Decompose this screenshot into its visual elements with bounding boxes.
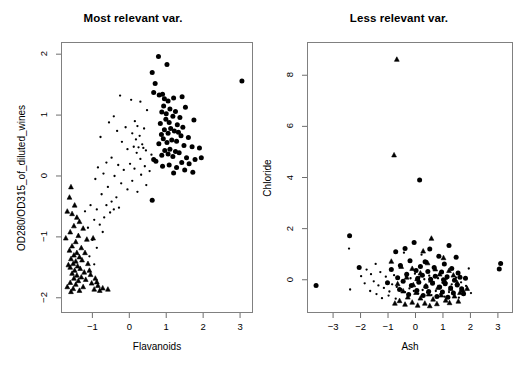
data-point-circle [389, 267, 394, 272]
data-point-dot [135, 138, 137, 140]
data-point-dot [391, 283, 393, 285]
data-point-dot [94, 178, 96, 180]
series-class-1 [314, 178, 504, 300]
data-point-circle [314, 283, 319, 288]
data-point-dot [379, 271, 381, 273]
data-point-triangle [69, 184, 74, 189]
data-point-dot [349, 288, 351, 290]
data-point-circle [169, 138, 174, 143]
data-point-circle [385, 280, 390, 285]
data-point-circle [150, 70, 155, 75]
data-point-dot [89, 204, 91, 206]
data-point-dot [401, 280, 403, 282]
data-point-triangle [72, 268, 77, 273]
data-point-dot [121, 141, 123, 143]
data-point-dot [387, 294, 389, 296]
data-point-triangle [394, 57, 399, 62]
data-point-circle [182, 167, 187, 172]
x-axis-title: Ash [307, 341, 513, 352]
data-point-triangle [79, 245, 84, 250]
data-point-circle [357, 265, 362, 270]
data-point-dot [117, 164, 119, 166]
data-point-circle [199, 155, 204, 160]
data-point-circle [427, 247, 432, 252]
x-tick-label: 3 [478, 321, 518, 332]
data-point-dot [348, 247, 350, 249]
data-point-triangle [81, 226, 86, 231]
data-point-triangle [100, 285, 105, 290]
data-point-dot [395, 298, 397, 300]
data-point-dot [142, 147, 144, 149]
data-point-circle [403, 246, 408, 251]
data-point-dot [113, 115, 115, 117]
data-point-circle [177, 115, 182, 120]
data-point-triangle [395, 281, 400, 286]
data-point-triangle [415, 303, 420, 308]
data-point-circle [436, 254, 441, 259]
data-point-dot [428, 275, 430, 277]
data-point-dot [396, 286, 398, 288]
data-point-circle [156, 54, 161, 59]
data-point-dot [96, 247, 98, 249]
data-point-triangle [403, 302, 408, 307]
data-point-triangle [70, 243, 75, 248]
data-point-dot [421, 289, 423, 291]
data-point-circle [412, 240, 417, 245]
data-point-circle [174, 139, 179, 144]
data-point-dot [126, 188, 128, 190]
data-point-dot [136, 191, 138, 193]
x-tick-label: 0 [109, 321, 149, 332]
data-point-circle [158, 121, 163, 126]
data-point-circle [160, 164, 165, 169]
data-point-dot [360, 275, 362, 277]
data-point-dot [375, 263, 377, 265]
data-point-circle [175, 122, 180, 127]
y-tick-label: 8 [284, 65, 295, 85]
data-point-dot [134, 120, 136, 122]
data-point-circle [171, 96, 176, 101]
data-point-dot [102, 172, 104, 174]
data-point-dot [373, 280, 375, 282]
data-point-triangle [91, 235, 96, 240]
data-point-circle [497, 267, 502, 272]
data-point-dot [470, 292, 472, 294]
y-axis-title: OD280/OD315_of_diluted_wines [16, 104, 27, 250]
data-point-dot [131, 132, 133, 134]
data-point-triangle [88, 272, 93, 277]
data-point-triangle [397, 298, 402, 303]
y-tick-label: −2 [38, 287, 49, 307]
x-tick-label: 2 [183, 321, 223, 332]
data-point-circle [417, 178, 422, 183]
data-point-triangle [84, 237, 89, 242]
data-point-circle [170, 114, 175, 119]
data-point-triangle [389, 259, 394, 264]
data-point-dot [115, 196, 117, 198]
data-point-dot [144, 165, 146, 167]
data-point-triangle [77, 219, 82, 224]
data-point-triangle [74, 250, 79, 255]
data-point-dot [88, 255, 90, 257]
data-point-circle [191, 117, 196, 122]
data-point-triangle [68, 229, 73, 234]
data-point-circle [447, 243, 452, 248]
data-point-triangle [87, 268, 92, 273]
data-point-circle [166, 152, 171, 157]
data-point-dot [375, 293, 377, 295]
data-point-triangle [76, 233, 81, 238]
data-point-dot [107, 186, 109, 188]
data-point-circle [184, 155, 189, 160]
data-point-circle [151, 157, 156, 162]
x-tick-label: −1 [72, 321, 112, 332]
data-point-dot [369, 290, 371, 292]
data-point-dot [377, 284, 379, 286]
data-point-dot [383, 287, 385, 289]
figure-canvas: Most relevant var. Less relevant var. −1… [0, 0, 532, 366]
data-point-dot [84, 210, 86, 212]
data-point-triangle [72, 223, 77, 228]
data-point-dot [118, 206, 120, 208]
data-point-dot [148, 170, 150, 172]
data-point-dot [451, 283, 453, 285]
data-point-dot [140, 174, 142, 176]
data-point-triangle [86, 261, 91, 266]
data-point-triangle [421, 249, 426, 254]
